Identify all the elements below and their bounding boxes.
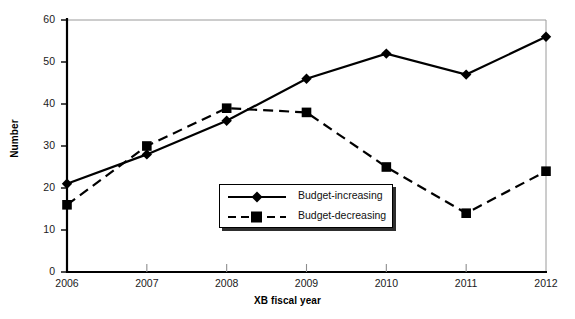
diamond-marker-icon [381, 48, 391, 58]
x-tick-label: 2007 [124, 277, 170, 289]
legend-swatch-budget-increasing [220, 186, 294, 208]
plot-area [0, 0, 575, 319]
square-marker-icon [222, 103, 232, 113]
line-chart: Number XB fiscal year 0102030405060 2006… [0, 0, 575, 319]
legend-label-budget-decreasing: Budget-decreasing [298, 209, 386, 221]
legend-item-budget-increasing: Budget-increasing [220, 186, 394, 208]
diamond-marker-icon [252, 192, 263, 203]
x-tick-label: 2010 [363, 277, 409, 289]
diamond-marker-icon [301, 74, 311, 84]
square-marker-icon [541, 166, 551, 176]
y-tick-label: 40 [29, 97, 55, 109]
square-marker-icon [382, 162, 392, 172]
diamond-marker-icon [541, 32, 551, 42]
x-tick-label: 2008 [204, 277, 250, 289]
diamond-marker-icon [221, 116, 231, 126]
square-marker-icon [251, 212, 262, 223]
legend-swatch-budget-decreasing [220, 206, 294, 228]
y-tick-label: 50 [29, 55, 55, 67]
y-tick-label: 60 [29, 13, 55, 25]
plot-frame [67, 20, 546, 272]
axis-lines [66, 18, 547, 273]
legend-label-budget-increasing: Budget-increasing [298, 189, 383, 201]
x-tick-label: 2012 [523, 277, 569, 289]
y-tick-label: 0 [29, 265, 55, 277]
y-tick-label: 10 [29, 223, 55, 235]
x-tick-label: 2011 [443, 277, 489, 289]
y-tick-label: 30 [29, 139, 55, 151]
legend-item-budget-decreasing: Budget-decreasing [220, 206, 394, 228]
x-tick-label: 2009 [284, 277, 330, 289]
x-tick-label: 2006 [44, 277, 90, 289]
square-marker-icon [302, 108, 312, 118]
diamond-marker-icon [461, 69, 471, 79]
y-tick-label: 20 [29, 181, 55, 193]
x-axis-ticks [147, 264, 466, 272]
chart-legend: Budget-increasing Budget-decreasing [219, 184, 393, 228]
square-marker-icon [62, 200, 72, 210]
square-marker-icon [142, 141, 152, 151]
square-marker-icon [461, 208, 471, 218]
